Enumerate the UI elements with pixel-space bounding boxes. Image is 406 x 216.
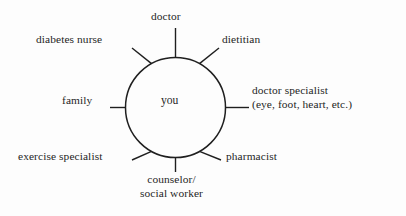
spoke-label-diabetes-nurse: diabetes nurse (36, 33, 102, 47)
center-label-you: you (161, 94, 178, 107)
spoke-label-counselor-line1: counselor/ (140, 173, 203, 187)
spoke-line-exercise-specialist (132, 151, 152, 160)
spoke-line-diabetes-nurse (132, 48, 152, 64)
spoke-label-counselor: counselor/ social worker (140, 173, 203, 200)
spoke-label-doctor-specialist: doctor specialist (eye, foot, heart, etc… (252, 84, 352, 111)
spoke-label-exercise-specialist: exercise specialist (18, 150, 102, 164)
spoke-label-doctor-specialist-line2: (eye, foot, heart, etc.) (252, 98, 352, 112)
spoke-line-dietitian (200, 48, 220, 64)
center-circle (126, 58, 226, 158)
care-team-diagram: you doctor diabetes nurse dietitian fami… (0, 0, 406, 216)
spoke-label-counselor-line2: social worker (140, 187, 203, 201)
spoke-label-family: family (62, 94, 92, 108)
spoke-label-doctor-specialist-line1: doctor specialist (252, 84, 352, 98)
spoke-label-pharmacist: pharmacist (226, 150, 277, 164)
spoke-label-dietitian: dietitian (222, 33, 260, 47)
spoke-label-doctor: doctor (151, 10, 181, 24)
spoke-line-pharmacist (200, 151, 222, 160)
